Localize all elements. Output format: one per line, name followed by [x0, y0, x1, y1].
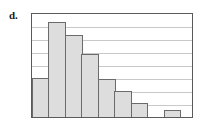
histogram-bar [114, 91, 132, 117]
part-label: d. [9, 9, 18, 21]
histogram-bar [98, 79, 116, 117]
histogram-bars-group [32, 14, 192, 117]
histogram-bar [164, 110, 182, 117]
histogram-bar [65, 35, 83, 117]
histogram-bar [131, 103, 149, 117]
histogram-bar [32, 78, 50, 117]
histogram-bar [48, 22, 66, 117]
figure-root: d. [0, 0, 217, 125]
histogram-plot-area [31, 13, 193, 118]
histogram-bar [81, 54, 99, 117]
